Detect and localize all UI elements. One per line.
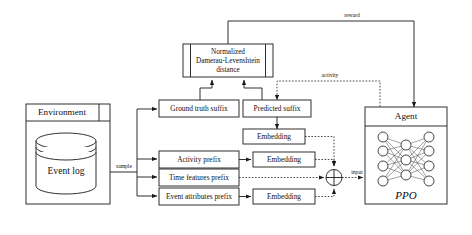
distance-label-line2: Damerau-Levenshtein xyxy=(196,57,260,65)
edge-label-reward: reward xyxy=(344,12,360,18)
agent-box: Agent xyxy=(365,107,447,204)
network-hidden-layer-nodes xyxy=(401,140,411,180)
event-log-label: Event log xyxy=(47,165,84,176)
predicted-suffix-box: Predicted suffix xyxy=(243,100,311,117)
distance-label-line3: distance xyxy=(216,66,240,74)
event-log-cylinder: Event log xyxy=(36,133,96,194)
embedding-box-3: Embedding xyxy=(253,189,315,204)
edge-label-activity: activity xyxy=(322,72,339,78)
time-features-prefix-box: Time features prefix xyxy=(159,169,239,186)
ground-truth-suffix-label: Ground truth suffix xyxy=(170,104,228,113)
predicted-suffix-label: Predicted suffix xyxy=(254,104,301,113)
edge-label-input: input xyxy=(351,169,363,175)
embedding-2-label: Embedding xyxy=(267,155,301,164)
embedding-1-label: Embedding xyxy=(257,132,291,141)
time-features-prefix-label: Time features prefix xyxy=(169,173,229,182)
ground-truth-suffix-box: Ground truth suffix xyxy=(159,100,239,117)
activity-prefix-box: Activity prefix xyxy=(159,151,239,168)
environment-header-label: Environment xyxy=(38,107,86,117)
embedding-box-2: Embedding xyxy=(253,152,315,167)
normalized-damerau-levenshtein-distance-box: Normalized Damerau-Levenshtein distance xyxy=(183,44,273,77)
embedding-3-label: Embedding xyxy=(267,192,301,201)
agent-header-label: Agent xyxy=(395,111,418,121)
distance-label-line1: Normalized xyxy=(211,48,245,56)
embedding-box-1: Embedding xyxy=(243,129,305,144)
environment-box: Environment Event log xyxy=(26,104,110,204)
architecture-diagram: reward activity Normalized Damerau-Leven… xyxy=(0,0,472,235)
event-attributes-prefix-label: Event attributes prefix xyxy=(166,192,232,201)
edge-label-sample: sample xyxy=(116,163,132,169)
event-attributes-prefix-box: Event attributes prefix xyxy=(159,188,239,205)
agent-algorithm-label: PPO xyxy=(394,189,416,201)
activity-prefix-label: Activity prefix xyxy=(177,155,221,164)
